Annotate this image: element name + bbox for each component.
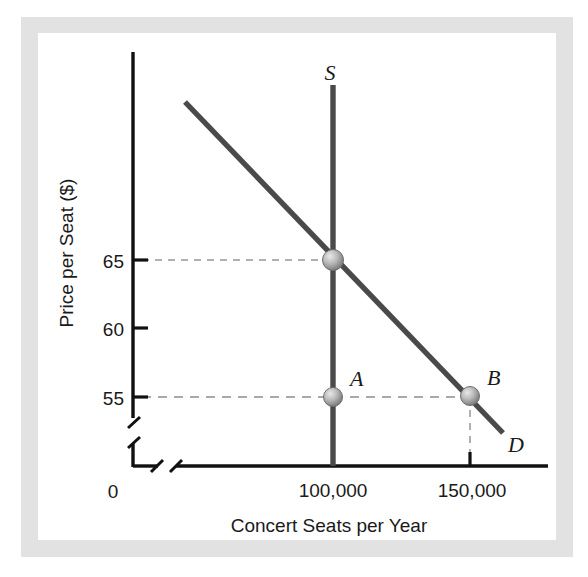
marker-equilibrium[interactable]: [323, 250, 344, 271]
demand-curve[interactable]: [185, 102, 503, 433]
x-axis-break-icon: [151, 460, 182, 472]
x-axis-title: Concert Seats per Year: [231, 515, 428, 536]
demand-curve-label: D: [507, 432, 524, 457]
guide-lines: [142, 260, 470, 466]
figure-root: 65 60 55 0 100,000 150,000 Concert Seats…: [0, 0, 588, 577]
point-a-label: A: [348, 366, 364, 391]
x-tick-label-100000: 100,000: [299, 480, 368, 501]
y-axis-title: Price per Seat ($): [56, 179, 77, 328]
curves-group: [185, 85, 503, 466]
origin-label: 0: [108, 481, 119, 502]
marker-point-b[interactable]: [461, 387, 480, 406]
y-tick-label-65: 65: [103, 251, 124, 272]
x-tick-label-150000: 150,000: [438, 480, 507, 501]
supply-demand-chart: 65 60 55 0 100,000 150,000 Concert Seats…: [0, 0, 588, 577]
point-b-label: B: [487, 365, 500, 390]
y-tick-label-55: 55: [103, 388, 124, 409]
y-tick-label-60: 60: [103, 319, 124, 340]
marker-point-a[interactable]: [324, 388, 343, 407]
supply-curve-label: S: [325, 60, 336, 85]
y-axis-break-icon: [128, 417, 140, 448]
